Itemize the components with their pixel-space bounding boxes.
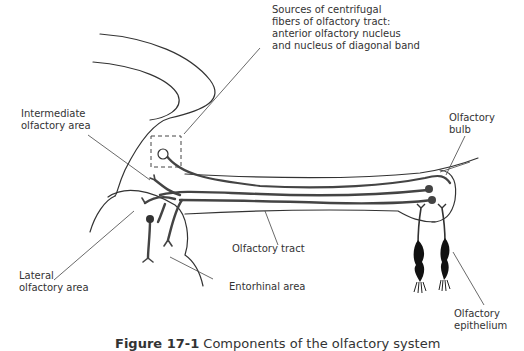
figure-caption: Figure 17-1 Components of the olfactory …	[115, 336, 440, 351]
mitral-fiber-2	[180, 200, 432, 203]
leader-tract	[265, 211, 278, 245]
leader-centrifugal	[184, 48, 260, 134]
olfactory-receptor-cell-1	[414, 204, 426, 293]
leader-epithelium	[453, 252, 484, 305]
label-lateral-olfactory-area: Lateral olfactory area	[19, 270, 89, 294]
temporal-lobe-outline	[108, 190, 203, 286]
lateral-cell-axon	[148, 220, 150, 258]
figure-title: Components of the olfactory system	[199, 336, 440, 351]
olfactory-receptor-cell-2	[438, 204, 450, 291]
brain-outline-lower	[90, 196, 115, 232]
figure-number: Figure 17-1	[115, 336, 199, 351]
brain-outline-inner	[93, 62, 179, 120]
label-entorhinal-area: Entorhinal area	[229, 281, 305, 293]
centrifugal-fiber	[166, 155, 450, 187]
mitral-cell-2	[428, 196, 436, 204]
label-olfactory-tract: Olfactory tract	[232, 243, 305, 255]
tract-outline-bottom	[185, 210, 435, 222]
dendrite-fork-3	[150, 175, 155, 180]
dendrite-fork-2	[164, 240, 172, 246]
brain-outline-outer	[100, 34, 215, 196]
tract-outline-top	[185, 158, 478, 178]
centrifugal-neuron	[158, 149, 168, 159]
dendrite-fork-1	[143, 258, 153, 262]
label-olfactory-bulb: Olfactory bulb	[449, 112, 495, 136]
label-intermediate-olfactory-area: Intermediate olfactory area	[21, 108, 91, 132]
label-olfactory-epithelium: Olfactory epithelium	[454, 308, 507, 332]
bulb-cross-line	[440, 162, 470, 172]
fiber-branch-entorhinal	[168, 200, 182, 240]
dendrite-fork-4	[142, 198, 145, 203]
mitral-fiber-1	[160, 190, 428, 195]
fiber-branch-mid	[158, 204, 165, 222]
label-centrifugal-sources: Sources of centrifugal fibers of olfacto…	[272, 4, 420, 52]
mitral-cell-1	[425, 185, 433, 193]
leader-intermediate	[88, 135, 150, 180]
lateral-area-neuron	[146, 215, 154, 223]
